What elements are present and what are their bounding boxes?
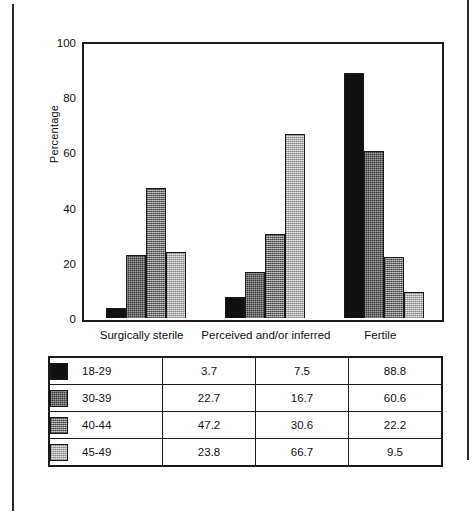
x-tick-label: Surgically sterile: [82, 329, 201, 341]
table-value-cell: 22.2: [349, 412, 443, 439]
legend-swatch-icon: [50, 444, 68, 461]
table-value-cell: 7.5: [256, 357, 349, 385]
bar-group: [344, 46, 424, 318]
table-row: 30-3922.716.760.6: [49, 385, 442, 412]
bar: [265, 234, 285, 318]
legend-data-table: 18-293.77.588.830-3922.716.760.640-4447.…: [48, 356, 443, 467]
bar: [225, 297, 245, 318]
legend-series-label: 40-44: [82, 419, 111, 431]
legend-swatch-icon: [50, 363, 68, 380]
table-value-cell: 60.6: [349, 385, 443, 412]
legend-series-cell: 30-39: [49, 385, 163, 412]
bar: [364, 151, 384, 318]
legend-swatch-wrap: 45-49: [50, 444, 162, 461]
legend-series-cell: 18-29: [49, 357, 163, 385]
x-tick-label: Perceived and/or inferred: [201, 329, 320, 341]
table-value-cell: 30.6: [256, 412, 349, 439]
legend-swatch-icon: [50, 417, 68, 434]
bar-chart: Percentage 020406080100 Surgically steri…: [0, 0, 476, 345]
y-tick-label: 40: [42, 204, 76, 215]
legend-data-table-body: 18-293.77.588.830-3922.716.760.640-4447.…: [49, 357, 442, 466]
table-value-cell: 9.5: [349, 439, 443, 467]
table-value-cell: 22.7: [163, 385, 256, 412]
table-row: 40-4447.230.622.2: [49, 412, 442, 439]
y-tick-label: 20: [42, 259, 76, 270]
figure-frame: Percentage 020406080100 Surgically steri…: [0, 0, 476, 515]
bar-group: [225, 46, 305, 318]
table-value-cell: 88.8: [349, 357, 443, 385]
bar: [146, 188, 166, 318]
table-value-cell: 23.8: [163, 439, 256, 467]
y-tick-label: 0: [42, 314, 76, 325]
legend-series-cell: 40-44: [49, 412, 163, 439]
legend-series-label: 30-39: [82, 392, 111, 404]
legend-swatch-wrap: 30-39: [50, 390, 162, 407]
legend-swatch-wrap: 40-44: [50, 417, 162, 434]
table-value-cell: 16.7: [256, 385, 349, 412]
bar: [126, 255, 146, 318]
plot-frame: [82, 42, 444, 322]
bar: [344, 73, 364, 318]
table-value-cell: 3.7: [163, 357, 256, 385]
bar: [166, 252, 186, 318]
legend-swatch-wrap: 18-29: [50, 363, 162, 380]
table-row: 45-4923.866.79.5: [49, 439, 442, 467]
bar: [106, 308, 126, 318]
table-value-cell: 66.7: [256, 439, 349, 467]
y-tick-label: 100: [42, 38, 76, 49]
legend-series-cell: 45-49: [49, 439, 163, 467]
bar: [404, 292, 424, 318]
bar-group: [106, 46, 186, 318]
table-row: 18-293.77.588.8: [49, 357, 442, 385]
bar: [285, 134, 305, 318]
x-axis-tick-labels: Surgically sterilePerceived and/or infer…: [82, 329, 444, 347]
legend-series-label: 18-29: [82, 365, 111, 377]
x-tick-label: Fertile: [321, 329, 440, 341]
legend-series-label: 45-49: [82, 446, 111, 458]
plot-inner: [86, 46, 440, 318]
bar: [245, 272, 265, 318]
table-value-cell: 47.2: [163, 412, 256, 439]
y-axis-tick-labels: 020406080100: [38, 0, 76, 345]
y-tick-label: 80: [42, 93, 76, 104]
bar: [384, 257, 404, 318]
y-tick-label: 60: [42, 148, 76, 159]
legend-swatch-icon: [50, 390, 68, 407]
